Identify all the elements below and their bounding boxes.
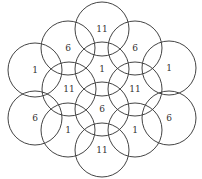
- circle-label-4: 1: [99, 64, 105, 74]
- circle-label-5: 1: [166, 63, 172, 73]
- circle-label-3: 1: [32, 65, 38, 75]
- circle-label-9: 6: [99, 104, 105, 114]
- circle-label-8: 6: [32, 113, 38, 123]
- circle-label-2: 6: [132, 43, 138, 53]
- circle-diagram: 116611111116661111: [0, 0, 202, 179]
- circle-label-6: 11: [63, 84, 74, 94]
- circle-label-12: 1: [132, 125, 138, 135]
- circle-label-7: 11: [129, 84, 140, 94]
- circle-label-11: 1: [65, 125, 71, 135]
- circle-label-10: 6: [166, 113, 172, 123]
- circle-label-1: 6: [65, 43, 71, 53]
- circle-diagram-canvas: 116611111116661111: [0, 0, 202, 179]
- circle-label-13: 11: [96, 145, 107, 155]
- circle-label-0: 11: [96, 24, 107, 34]
